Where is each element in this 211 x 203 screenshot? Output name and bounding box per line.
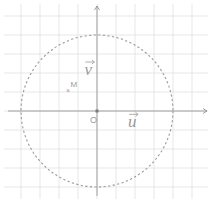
vector-v-label: v <box>84 60 94 79</box>
coordinate-plane: O v u × M <box>0 0 211 203</box>
origin-label: O <box>90 115 97 125</box>
vector-v-letter: v <box>84 60 92 79</box>
origin-marker <box>96 110 99 113</box>
diagram-canvas: O v u × M <box>0 0 211 203</box>
vector-u-label: u <box>128 112 138 131</box>
axes <box>8 6 207 196</box>
vector-u-letter: u <box>128 112 137 131</box>
point-M-cross-icon: × <box>66 87 70 94</box>
grid-lines <box>4 4 208 199</box>
point-M-label: M <box>71 80 78 89</box>
